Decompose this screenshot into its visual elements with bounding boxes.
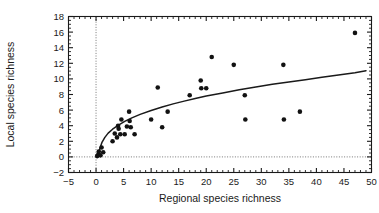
y-tick-label-3: 4 <box>59 120 64 131</box>
y-tick-label-8: 14 <box>53 42 64 53</box>
y-tick-label-2: 2 <box>59 136 64 147</box>
data-point <box>282 117 287 122</box>
data-point <box>112 131 117 136</box>
data-point <box>281 63 286 68</box>
y-tick-label-10: 18 <box>53 11 64 22</box>
data-point <box>122 132 127 137</box>
data-point <box>125 124 130 129</box>
y-tick-label-0: −2 <box>53 167 64 178</box>
data-point <box>187 93 192 98</box>
data-point <box>204 86 209 91</box>
data-point <box>128 125 133 130</box>
data-point <box>127 119 132 124</box>
x-tick-label-8: 35 <box>284 176 295 187</box>
data-point <box>242 93 247 98</box>
x-tick-label-5: 20 <box>201 176 212 187</box>
x-tick-label-10: 45 <box>339 176 350 187</box>
data-point <box>209 55 214 60</box>
data-point <box>118 132 123 137</box>
fit-curve-line <box>98 71 366 156</box>
data-point <box>243 117 248 122</box>
x-tick-label-4: 15 <box>173 176 184 187</box>
data-point <box>231 63 236 68</box>
plot-canvas: −505101520253035404550−2024681012141618R… <box>0 0 379 213</box>
y-tick-label-6: 10 <box>53 73 64 84</box>
data-point <box>160 125 165 130</box>
data-point <box>119 117 124 122</box>
x-tick-label-6: 25 <box>228 176 239 187</box>
data-point <box>199 86 204 91</box>
x-tick-label-3: 10 <box>146 176 157 187</box>
x-tick-label-7: 30 <box>256 176 267 187</box>
y-tick-label-5: 8 <box>59 89 64 100</box>
x-tick-label-9: 40 <box>311 176 322 187</box>
data-point <box>99 145 104 150</box>
data-point <box>155 85 160 90</box>
scatter-plot-figure: −505101520253035404550−2024681012141618R… <box>0 0 379 213</box>
x-tick-label-11: 50 <box>366 176 377 187</box>
data-point <box>149 117 154 122</box>
y-tick-label-1: 0 <box>59 151 64 162</box>
data-point <box>198 78 203 83</box>
data-point <box>116 127 121 132</box>
x-axis-title: Regional species richness <box>159 192 281 204</box>
plot-frame <box>69 17 372 173</box>
data-point <box>127 109 132 114</box>
data-point <box>353 31 358 36</box>
x-tick-label-2: 5 <box>121 176 126 187</box>
x-tick-label-0: −5 <box>63 176 74 187</box>
x-tick-label-1: 0 <box>93 176 98 187</box>
y-tick-label-7: 12 <box>53 58 64 69</box>
data-point <box>132 132 137 137</box>
data-point <box>298 109 303 114</box>
y-axis-title: Local species richness <box>4 42 16 148</box>
data-point <box>101 150 106 155</box>
y-tick-label-9: 16 <box>53 27 64 38</box>
data-point <box>165 109 170 114</box>
series-0 <box>95 31 357 159</box>
data-point <box>110 139 115 144</box>
y-tick-label-4: 6 <box>59 105 64 116</box>
